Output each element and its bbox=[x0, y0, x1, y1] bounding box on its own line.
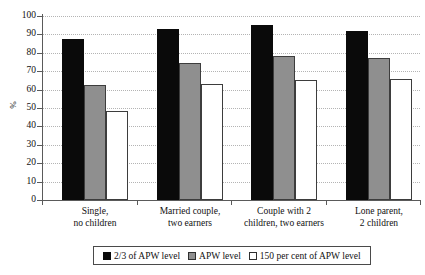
x-axis-category-label-line: 2 children bbox=[319, 218, 425, 230]
x-axis-tick-mark bbox=[42, 200, 43, 205]
x-axis-category-label-line: Lone parent, bbox=[319, 206, 425, 218]
y-axis-tick-mark bbox=[37, 163, 42, 164]
y-axis-tick-label: 30 bbox=[0, 140, 36, 150]
x-axis-tick-mark bbox=[326, 200, 327, 205]
legend-item: 150 per cent of APW level bbox=[249, 251, 361, 261]
y-axis-tick-label: 60 bbox=[0, 85, 36, 95]
y-axis-tick-mark bbox=[37, 34, 42, 35]
x-axis-category-label: Lone parent,2 children bbox=[319, 206, 425, 229]
legend-item: APW level bbox=[188, 251, 241, 261]
x-axis-tick-mark bbox=[137, 200, 138, 205]
y-axis-tick-label: 80 bbox=[0, 48, 36, 58]
y-axis-tick-mark bbox=[37, 182, 42, 183]
y-axis-tick-label: 40 bbox=[0, 121, 36, 131]
bar bbox=[390, 79, 412, 200]
y-axis-tick-label: 100 bbox=[0, 11, 36, 21]
legend-swatch-black-icon bbox=[103, 252, 111, 260]
x-axis-tick-mark bbox=[231, 200, 232, 205]
legend-item-label: 2/3 of APW level bbox=[114, 251, 180, 261]
x-axis-line bbox=[42, 200, 402, 201]
bar-group bbox=[157, 16, 223, 200]
bar-group bbox=[251, 16, 317, 200]
y-axis-tick-mark bbox=[37, 53, 42, 54]
bars-layer bbox=[42, 16, 420, 200]
y-axis-tick-mark bbox=[37, 126, 42, 127]
bar bbox=[84, 85, 106, 200]
y-axis-tick-label: 0 bbox=[0, 195, 36, 205]
bar-group bbox=[62, 16, 128, 200]
bar bbox=[346, 31, 368, 200]
legend-item-label: 150 per cent of APW level bbox=[260, 251, 361, 261]
bar bbox=[157, 29, 179, 200]
y-axis-tick-label: 20 bbox=[0, 158, 36, 168]
bar bbox=[368, 58, 390, 200]
legend-item: 2/3 of APW level bbox=[103, 251, 180, 261]
bar bbox=[62, 39, 84, 200]
bar bbox=[179, 63, 201, 200]
chart-legend: 2/3 of APW level APW level 150 per cent … bbox=[93, 246, 371, 265]
y-axis-tick-mark bbox=[37, 145, 42, 146]
y-axis-tick-label: 50 bbox=[0, 103, 36, 113]
y-axis-tick-label: 10 bbox=[0, 177, 36, 187]
legend-swatch-white-icon bbox=[249, 252, 257, 260]
bar bbox=[106, 111, 128, 200]
bar bbox=[201, 84, 223, 200]
y-axis-tick-mark bbox=[37, 16, 42, 17]
bar-group bbox=[346, 16, 412, 200]
x-axis-tick-mark bbox=[420, 200, 421, 205]
legend-item-label: APW level bbox=[199, 251, 241, 261]
y-axis-tick-label: 90 bbox=[0, 29, 36, 39]
y-axis-tick-mark bbox=[37, 108, 42, 109]
legend-swatch-gray-icon bbox=[188, 252, 196, 260]
y-axis-tick-mark bbox=[37, 90, 42, 91]
bar bbox=[273, 56, 295, 200]
bar-chart: % Single,no childrenMarried couple,two e… bbox=[0, 0, 425, 275]
bar bbox=[295, 80, 317, 200]
y-axis-tick-label: 70 bbox=[0, 66, 36, 76]
y-axis-tick-mark bbox=[37, 71, 42, 72]
bar bbox=[251, 25, 273, 200]
